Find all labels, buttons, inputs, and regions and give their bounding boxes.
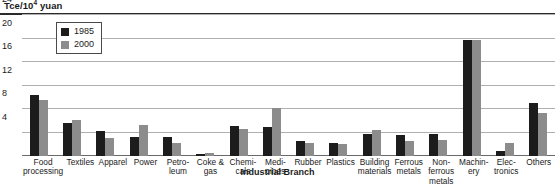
bar-1985 [196,154,205,156]
y-tick-label-24: 24 [2,0,12,4]
bar-2000 [72,120,81,156]
bar-2000 [305,143,314,156]
bar-group [488,15,521,156]
bar-2000 [505,143,514,157]
bar-2000 [438,140,447,156]
y-axis-unit-tail: yuan [37,0,62,11]
bar-1985 [96,131,105,156]
legend-item-2000: 2000 [61,39,94,50]
legend-swatch-1985 [61,28,69,36]
bar-1985 [130,137,139,156]
legend: 1985 2000 [56,22,102,54]
bar-2000 [372,130,381,156]
legend-item-1985: 1985 [61,26,94,37]
bar-1985 [396,135,405,156]
bar-2000 [472,40,481,156]
bar-2000 [338,144,347,156]
bar-1985 [296,141,305,156]
bar-group [289,15,322,156]
bar-2000 [205,153,214,156]
bar-group [255,15,288,156]
bar-2000 [272,108,281,156]
bar-1985 [529,103,538,156]
bar-2000 [239,129,248,156]
bar-1985 [30,95,39,156]
bar-group [422,15,455,156]
bar-group [122,15,155,156]
legend-label-1985: 1985 [74,27,94,36]
bar-group [222,15,255,156]
y-tick-label-8: 8 [2,89,7,98]
bar-group [355,15,388,156]
bar-1985 [163,137,172,156]
bar-1985 [496,151,505,156]
bar-2000 [105,138,114,156]
bar-group [455,15,488,156]
bar-group [322,15,355,156]
bar-group [22,15,55,156]
y-tick-label-16: 16 [2,42,12,51]
legend-label-2000: 2000 [74,40,94,49]
bar-1985 [463,40,472,156]
bar-group [388,15,421,156]
x-axis-title: Industrial Branch [0,167,555,177]
y-tick-label-20: 20 [2,19,12,28]
bar-1985 [230,126,239,156]
bar-group [155,15,188,156]
bar-1985 [263,127,272,156]
y-tick-label-4: 4 [2,113,7,122]
bar-1985 [329,143,338,156]
bar-chart: Tce/104 yuan 2420161284 1985 2000 Foodpr… [0,0,555,186]
bar-group [189,15,222,156]
bar-2000 [139,125,148,156]
y-axis-unit-label: Tce/104 yuan [4,0,63,12]
y-tick-label-12: 12 [2,66,12,75]
bar-2000 [405,141,414,156]
legend-swatch-2000 [61,41,69,49]
bar-2000 [538,113,547,156]
bar-group [522,15,555,156]
bar-1985 [363,134,372,156]
bar-2000 [172,143,181,157]
bar-1985 [429,134,438,156]
bar-2000 [39,100,48,156]
bar-1985 [63,123,72,156]
